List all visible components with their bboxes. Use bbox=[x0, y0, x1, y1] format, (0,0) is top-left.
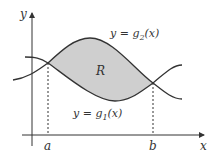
y-axis-label: y bbox=[19, 7, 27, 21]
x-axis-label: x bbox=[200, 139, 207, 153]
region-label: R bbox=[95, 64, 105, 78]
g2-label: y = g2(x) bbox=[109, 27, 159, 42]
g1-label: y = g1(x) bbox=[72, 107, 122, 122]
region-between-curves-diagram: y x a b R y = g2(x) y = g1(x) bbox=[0, 0, 216, 162]
point-a-label: a bbox=[44, 139, 51, 153]
point-b-label: b bbox=[149, 139, 157, 153]
